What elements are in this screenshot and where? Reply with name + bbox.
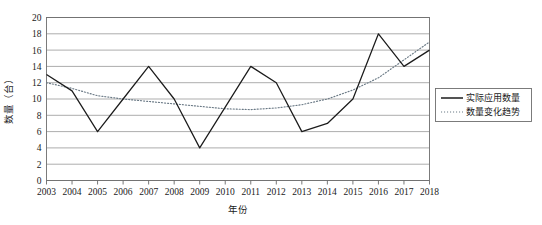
y-axis-tick-label: 14	[32, 62, 42, 72]
x-axis-tick-label: 2003	[37, 187, 56, 197]
y-axis-tick-label: 4	[37, 143, 42, 153]
x-axis-tick-label: 2007	[139, 187, 158, 197]
x-axis-tick-label: 2009	[190, 187, 209, 197]
x-axis-tick-label: 2014	[318, 187, 337, 197]
x-axis-tick-label: 2018	[420, 187, 439, 197]
y-axis-tick-label: 10	[32, 94, 42, 104]
y-axis-tick-label: 2	[37, 160, 42, 170]
x-axis-tick-marks	[47, 181, 430, 185]
x-axis-tick-label: 2010	[216, 187, 235, 197]
y-axis-tick-label: 18	[32, 29, 42, 39]
legend-label-actual: 实际应用数量	[466, 92, 520, 103]
x-axis-tick-label: 2015	[343, 187, 362, 197]
x-axis-tick-label: 2005	[88, 187, 107, 197]
y-axis-tick-label: 8	[37, 111, 42, 121]
y-axis-tick-label: 16	[32, 46, 42, 56]
y-axis-tick-labels: 02468101214161820	[32, 13, 42, 186]
x-axis-tick-label: 2017	[394, 187, 413, 197]
x-axis-tick-label: 2008	[165, 187, 184, 197]
chart-canvas: 02468101214161820 2003200420052006200720…	[0, 0, 542, 225]
x-axis-tick-label: 2016	[369, 187, 388, 197]
legend: 实际应用数量 数量变化趋势	[436, 89, 532, 122]
series-line-trend	[47, 42, 430, 110]
y-axis-tick-label: 20	[32, 13, 42, 23]
gridlines-group	[47, 18, 430, 181]
y-axis-title: 数量（台）	[3, 74, 14, 124]
x-axis-tick-labels: 2003200420052006200720082009201020112012…	[37, 187, 439, 197]
x-axis-tick-label: 2013	[292, 187, 311, 197]
x-axis-tick-label: 2012	[267, 187, 286, 197]
series-line-actual	[47, 34, 430, 148]
y-axis-tick-label: 6	[37, 127, 42, 137]
x-axis-tick-label: 2011	[241, 187, 260, 197]
line-chart-figure: 02468101214161820 2003200420052006200720…	[0, 0, 542, 225]
x-axis-tick-label: 2004	[63, 187, 82, 197]
y-axis-tick-label: 0	[37, 176, 42, 186]
x-axis-tick-label: 2006	[114, 187, 133, 197]
y-axis-tick-label: 12	[32, 78, 42, 88]
x-axis-title: 年份	[228, 204, 248, 215]
legend-label-trend: 数量变化趋势	[466, 106, 520, 117]
